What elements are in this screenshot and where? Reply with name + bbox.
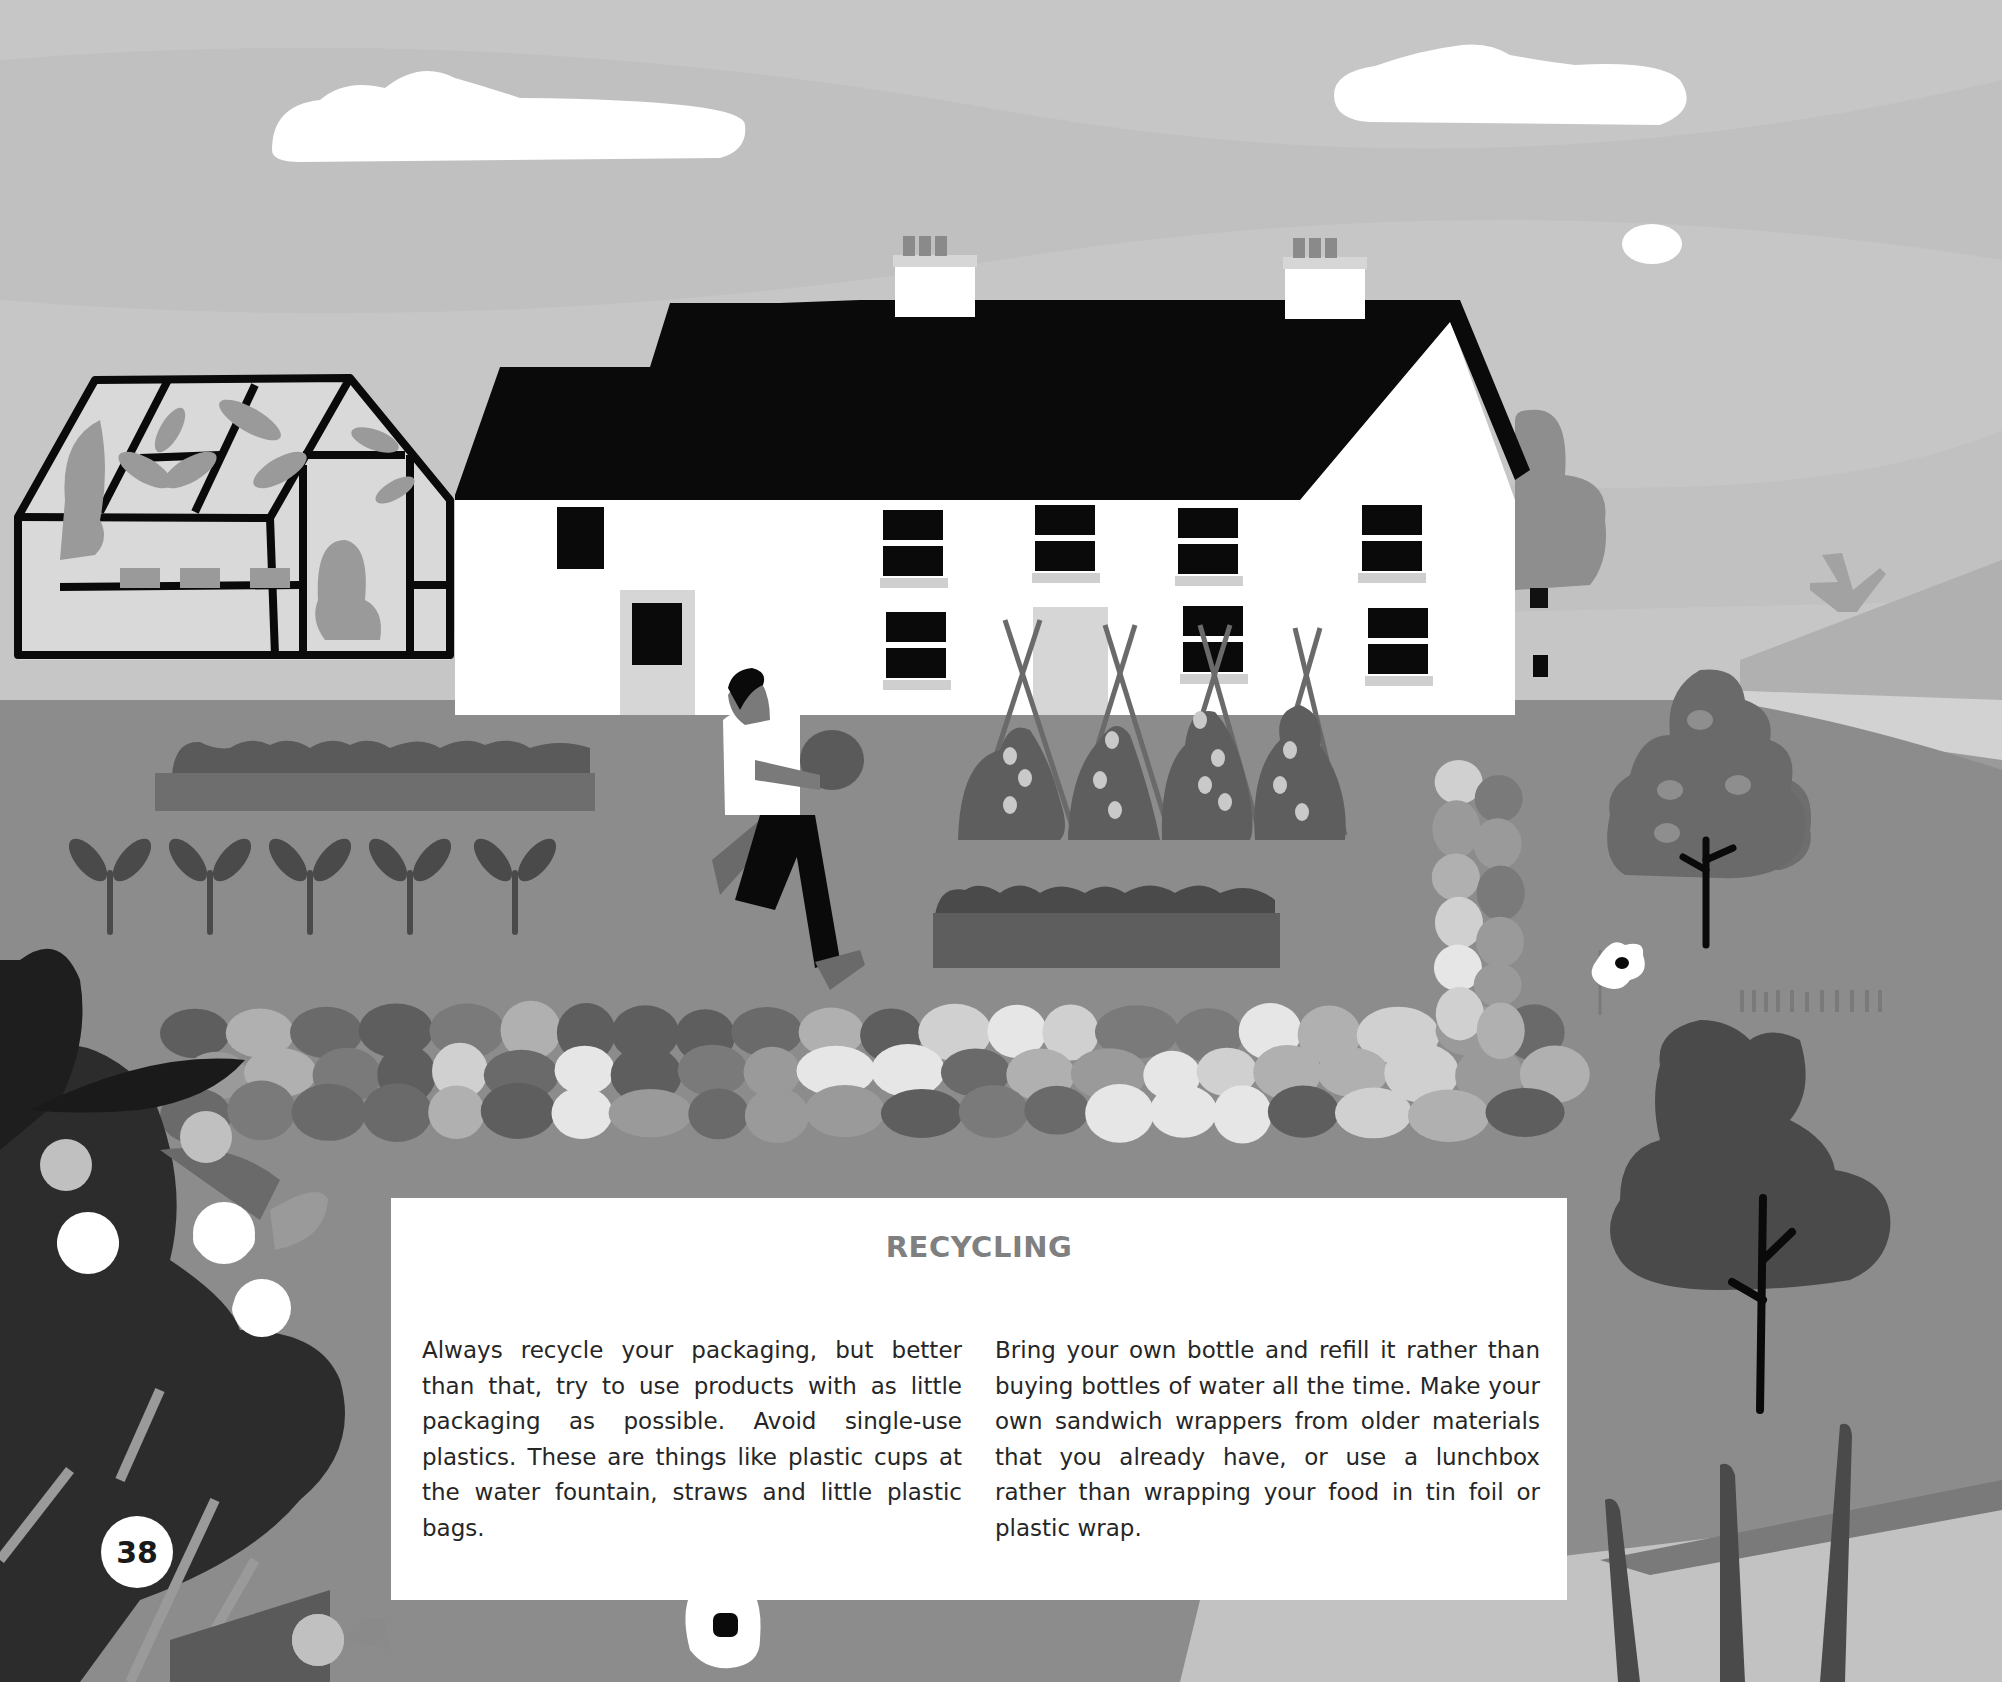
stone bbox=[609, 1089, 693, 1137]
paragraph-left: Always recycle your packaging, but bette… bbox=[422, 1333, 962, 1546]
stone bbox=[428, 1085, 485, 1139]
page-number: 38 bbox=[101, 1516, 173, 1588]
stone bbox=[678, 1045, 748, 1096]
stone bbox=[1474, 963, 1522, 1006]
stone bbox=[227, 1081, 295, 1141]
door bbox=[1033, 607, 1108, 715]
stone bbox=[959, 1085, 1029, 1138]
stone bbox=[1475, 775, 1523, 822]
stone bbox=[1477, 1002, 1525, 1059]
stone bbox=[1477, 865, 1525, 920]
stone bbox=[745, 1088, 809, 1143]
stone bbox=[555, 1046, 615, 1095]
stone bbox=[881, 1089, 963, 1138]
stone bbox=[1432, 854, 1480, 901]
stone bbox=[552, 1087, 613, 1139]
raised-bed bbox=[155, 741, 595, 811]
stone bbox=[1268, 1086, 1339, 1138]
stone bbox=[1476, 917, 1524, 967]
stone bbox=[871, 1044, 945, 1097]
stone bbox=[1150, 1085, 1217, 1138]
raised-bed bbox=[933, 886, 1280, 969]
paragraph-right: Bring your own bottle and refill it rath… bbox=[995, 1333, 1540, 1546]
stone bbox=[481, 1083, 556, 1139]
section-title: RECYCLING bbox=[391, 1230, 1567, 1264]
stone bbox=[362, 1083, 432, 1142]
stone bbox=[805, 1085, 885, 1137]
stone bbox=[1474, 818, 1522, 869]
stone bbox=[1408, 1089, 1490, 1142]
stone bbox=[1486, 1088, 1565, 1137]
stone bbox=[1024, 1086, 1089, 1135]
tree-trunk bbox=[1530, 588, 1548, 608]
stone bbox=[1335, 1088, 1412, 1139]
info-box: RECYCLING Always recycle your packaging,… bbox=[391, 1198, 1567, 1600]
stone bbox=[1435, 897, 1483, 949]
stone bbox=[160, 1009, 230, 1058]
stone bbox=[1432, 800, 1480, 857]
cloud-icon bbox=[1622, 224, 1682, 264]
stone bbox=[292, 1084, 367, 1141]
stone bbox=[1213, 1085, 1272, 1143]
stone bbox=[688, 1089, 749, 1140]
stone bbox=[1085, 1084, 1154, 1143]
